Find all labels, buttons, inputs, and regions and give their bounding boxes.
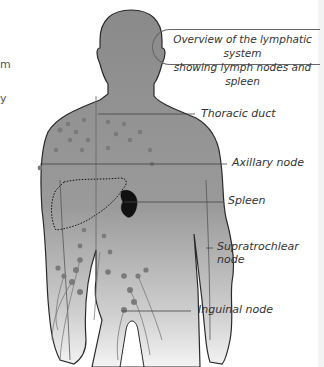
label-supratrochlear-node: Supratrochlear node — [217, 240, 299, 266]
title-line-2: showing lymph nodes and spleen — [160, 60, 324, 88]
title-line-1: Overview of the lymphatic system — [160, 32, 324, 60]
cropped-text-fragment: m — [0, 58, 11, 71]
label-axillary-node: Axillary node — [232, 156, 304, 169]
label-line-2: node — [217, 253, 244, 266]
label-inguinal-node: Inguinal node — [198, 303, 273, 316]
label-thoracic-duct: Thoracic duct — [201, 107, 276, 120]
cropped-text-fragment: y — [0, 92, 7, 105]
label-line-1: Supratrochlear — [217, 240, 299, 253]
label-spleen: Spleen — [228, 194, 266, 207]
diagram-title: Overview of the lymphatic system showing… — [160, 32, 324, 88]
